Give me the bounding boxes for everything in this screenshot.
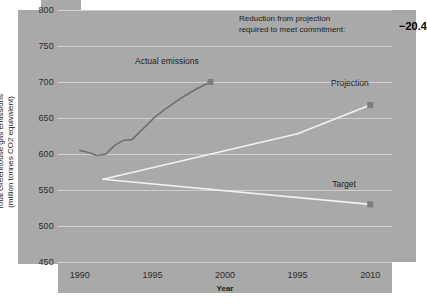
- x-tick-label: 1995: [142, 270, 162, 280]
- y-axis-title-line2: (million tonnes CO2 equivalent): [6, 37, 16, 267]
- paper-notch-top-right: [400, 0, 416, 10]
- reduction-annotation-value: −20.4: [399, 19, 427, 34]
- series-end-marker: [207, 79, 213, 85]
- y-tick-label: 550: [38, 185, 54, 195]
- x-tick-label: 2010: [360, 270, 380, 280]
- x-axis-title: Year: [217, 284, 234, 293]
- y-tick-label: 750: [38, 41, 54, 51]
- x-tick-label: 1990: [70, 270, 90, 280]
- series-label: Actual emissions: [135, 56, 199, 66]
- paper-notch-bottom-right: [392, 262, 416, 304]
- y-tick-label: 450: [38, 257, 54, 267]
- y-tick-label: 800: [38, 5, 54, 15]
- series-label: Target: [332, 179, 356, 189]
- series-layer: [58, 10, 392, 262]
- reduction-annotation-line2: required to meet commitment:: [239, 25, 345, 36]
- reduction-annotation: Reduction from projection required to me…: [239, 14, 345, 36]
- y-tick-label: 650: [38, 113, 54, 123]
- series-line: [103, 105, 370, 179]
- series-line: [103, 179, 370, 204]
- series-end-marker: [367, 201, 373, 207]
- series-line: [80, 82, 211, 155]
- y-tick-label: 500: [38, 221, 54, 231]
- y-axis-title: Total Greenhouse gas emissions (million …: [0, 37, 16, 267]
- y-tick-label: 600: [38, 149, 54, 159]
- series-label: Projection: [331, 78, 369, 88]
- gridline: [58, 262, 392, 263]
- reduction-annotation-line1: Reduction from projection: [239, 14, 345, 25]
- x-tick-label: 1995: [288, 270, 308, 280]
- y-tick-label: 700: [38, 77, 54, 87]
- paper-notch-bottom-left: [18, 264, 58, 304]
- x-tick-label: 2000: [215, 270, 235, 280]
- plot-area: 800750700650600550500450 199019952000199…: [58, 10, 392, 262]
- series-end-marker: [367, 102, 373, 108]
- y-axis-title-line1: Total Greenhouse gas emissions: [0, 94, 5, 210]
